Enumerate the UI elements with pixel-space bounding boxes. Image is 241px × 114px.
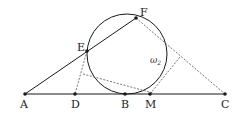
label-a: A xyxy=(19,98,29,111)
point-a xyxy=(23,92,27,96)
label-m: M xyxy=(145,98,156,111)
label-f: F xyxy=(140,6,148,19)
point-f xyxy=(134,16,138,20)
label-b: B xyxy=(121,98,129,111)
dashed-to-m xyxy=(83,74,153,93)
point-c xyxy=(223,92,227,96)
label-e: E xyxy=(77,41,85,54)
circle-omega2 xyxy=(87,14,167,94)
label-omega2: ω2 xyxy=(150,55,161,66)
point-e xyxy=(85,49,89,53)
label-c: C xyxy=(221,98,229,111)
point-m xyxy=(148,92,152,96)
dashed-ed xyxy=(75,51,87,94)
point-d xyxy=(73,92,77,96)
geometry-diagram: A D B M C E F ω2 xyxy=(0,0,241,114)
line-af xyxy=(25,18,136,94)
label-d: D xyxy=(71,98,80,111)
point-b xyxy=(123,92,127,96)
